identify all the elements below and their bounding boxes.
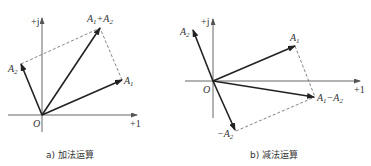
phasor-diagram: +j +1 O A1 A2 A1+A2 a) 加法运算 +j +1 O A1 A… <box>0 0 371 166</box>
real-axis-label: +1 <box>130 118 141 129</box>
label-a1-plus-a2: A1+A2 <box>86 13 113 26</box>
vector-a1-minus-a2 <box>213 81 314 97</box>
panel-subtraction: +j +1 O A1 A2 −A2 A1−A2 b) 减法运算 <box>179 16 365 160</box>
origin-label: O <box>203 84 210 95</box>
vector-neg-a2 <box>213 81 235 130</box>
label-a2: A2 <box>179 26 190 39</box>
panel-addition: +j +1 O A1 A2 A1+A2 a) 加法运算 <box>7 13 141 160</box>
label-a1: A1 <box>289 32 300 45</box>
dashed-a1-to-diff <box>295 46 315 97</box>
vector-a1 <box>213 46 295 81</box>
label-a1-minus-a2: A1−A2 <box>316 92 343 105</box>
dashed-a1-to-sum <box>100 28 122 80</box>
label-a2: A2 <box>7 63 18 76</box>
vector-a2 <box>193 30 213 81</box>
caption-subtraction: b) 减法运算 <box>250 149 298 160</box>
imag-axis-label: +j <box>201 16 209 27</box>
label-a1: A1 <box>123 75 134 88</box>
caption-addition: a) 加法运算 <box>46 149 94 160</box>
label-neg-a2: −A2 <box>217 128 234 141</box>
imag-axis-label: +j <box>31 16 39 27</box>
dashed-neg-a2-to-diff <box>236 97 315 131</box>
origin-label: O <box>33 118 40 129</box>
real-axis-label: +1 <box>354 84 365 95</box>
vector-a2 <box>21 64 42 115</box>
